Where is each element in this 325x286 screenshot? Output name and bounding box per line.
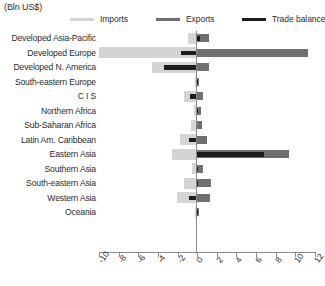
category-label: Latin Am. Caribbean xyxy=(21,133,96,148)
bar-group xyxy=(99,75,315,90)
legend-swatch-exports xyxy=(156,18,180,21)
bar-group xyxy=(99,133,315,148)
chart-row: South-eastern Europe xyxy=(0,75,324,90)
bar-group xyxy=(99,118,315,133)
x-axis-tick-label: 0 xyxy=(194,255,205,264)
bar-exports xyxy=(197,136,207,144)
plot-area: Developed Asia-PacificDeveloped EuropeDe… xyxy=(0,31,324,245)
legend-label-imports: Imports xyxy=(100,14,128,24)
legend-label-trade-balance: Trade balance xyxy=(272,14,325,24)
legend-item-imports: Imports xyxy=(70,13,128,25)
chart-row: C I S xyxy=(0,89,324,104)
bar-group xyxy=(99,46,315,61)
chart-legend: Imports Exports Trade balance xyxy=(70,13,322,25)
chart-row: Developed Asia-Pacific xyxy=(0,31,324,46)
category-label: Northern Africa xyxy=(41,104,96,119)
bar-balance xyxy=(197,152,264,157)
units-label: (Bln US$) xyxy=(4,2,42,12)
x-axis-tick-label: 2 xyxy=(214,255,225,264)
chart-row: Developed Europe xyxy=(0,46,324,61)
chart-row: Eastern Asia xyxy=(0,147,324,162)
x-axis-tick-label: -6 xyxy=(135,253,147,265)
legend-swatch-imports xyxy=(70,18,94,21)
chart-row: Developed N. America xyxy=(0,60,324,75)
category-label: Eastern Asia xyxy=(50,147,96,162)
legend-label-exports: Exports xyxy=(186,14,214,24)
chart-row: Sub-Saharan Africa xyxy=(0,118,324,133)
category-label: South-eastern Asia xyxy=(26,176,96,191)
bar-exports xyxy=(197,194,210,202)
legend-item-trade-balance: Trade balance xyxy=(242,13,325,25)
bar-group xyxy=(99,89,315,104)
chart-row: South-eastern Asia xyxy=(0,176,324,191)
category-label: Southern Asia xyxy=(44,162,96,177)
category-label: Sub-Saharan Africa xyxy=(24,118,96,133)
bar-balance xyxy=(197,181,198,186)
x-axis-tick-label: 4 xyxy=(233,255,244,264)
bar-group xyxy=(99,176,315,191)
legend-swatch-trade-balance xyxy=(242,18,266,21)
category-label: Western Asia xyxy=(47,191,96,206)
category-label: South-eastern Europe xyxy=(15,75,96,90)
bar-group xyxy=(99,191,315,206)
bar-balance xyxy=(181,51,197,56)
zero-axis-line xyxy=(196,31,197,253)
category-label: Developed N. America xyxy=(13,60,96,75)
bar-exports xyxy=(197,63,209,71)
chart-row: Southern Asia xyxy=(0,162,324,177)
bar-balance xyxy=(197,210,198,215)
bar-group xyxy=(99,147,315,162)
bar-imports xyxy=(172,149,198,160)
x-axis: -10-8-6-4-2024681012 xyxy=(0,252,324,286)
bar-balance xyxy=(164,65,197,70)
chart-row: Northern Africa xyxy=(0,104,324,119)
category-label: C I S xyxy=(78,89,96,104)
x-axis-tick-label: 10 xyxy=(292,252,305,265)
x-axis-tick-label: -8 xyxy=(116,253,128,265)
x-axis-tick-label: -4 xyxy=(155,253,167,265)
bar-balance xyxy=(197,167,198,172)
x-axis-tick-label: 8 xyxy=(273,255,284,264)
legend-item-exports: Exports xyxy=(156,13,214,25)
bar-group xyxy=(99,60,315,75)
bar-exports xyxy=(197,179,211,187)
x-axis-tick-label: 12 xyxy=(312,252,325,265)
bar-balance xyxy=(197,109,198,114)
x-axis-line xyxy=(99,252,315,253)
bar-balance xyxy=(197,80,198,85)
bar-group xyxy=(99,162,315,177)
chart-row: Oceania xyxy=(0,205,324,220)
bar-exports xyxy=(197,92,203,100)
bar-balance xyxy=(197,36,200,41)
category-label: Developed Asia-Pacific xyxy=(11,31,96,46)
x-axis-tick-label: 6 xyxy=(253,255,264,264)
bar-group xyxy=(99,31,315,46)
bar-group xyxy=(99,104,315,119)
bar-group xyxy=(99,205,315,220)
x-axis-tick-label: -2 xyxy=(175,253,187,265)
chart-row: Latin Am. Caribbean xyxy=(0,133,324,148)
category-label: Developed Europe xyxy=(27,46,96,61)
bar-exports xyxy=(197,121,202,129)
chart-row: Western Asia xyxy=(0,191,324,206)
bar-exports xyxy=(197,49,308,57)
category-label: Oceania xyxy=(65,205,96,220)
